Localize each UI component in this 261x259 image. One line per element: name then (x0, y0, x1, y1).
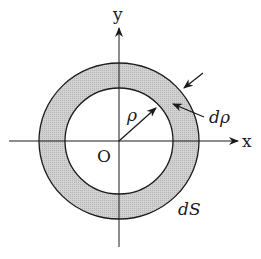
radius-label: ρ (126, 105, 137, 125)
x-axis-label: x (242, 131, 252, 151)
drho-outer-arrow (184, 73, 203, 88)
drho-label: dρ (209, 107, 230, 127)
y-axis-label: y (112, 4, 123, 24)
area-label: dS (178, 199, 201, 219)
origin-label: O (97, 146, 111, 166)
radius-arrow (119, 108, 156, 141)
annulus-diagram: y x O ρ dρ dS (0, 0, 261, 259)
